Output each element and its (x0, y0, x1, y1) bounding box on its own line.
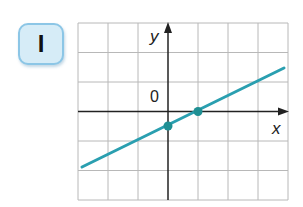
y-axis-label: y (149, 27, 160, 46)
x-axis-arrow-icon (278, 108, 289, 116)
x-axis-label: x (271, 119, 281, 138)
origin-label: 0 (150, 88, 159, 105)
point-x-intercept (194, 107, 203, 116)
plotted-line (82, 68, 284, 167)
coordinate-plane: y 0 x (0, 0, 303, 207)
y-axis-arrow-icon (164, 22, 172, 33)
point-y-intercept (164, 122, 173, 131)
